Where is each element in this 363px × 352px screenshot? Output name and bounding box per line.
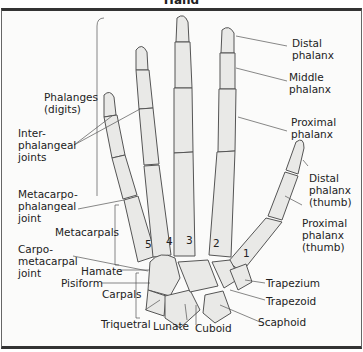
- label-middle-phalanx: Middle phalanx: [289, 71, 331, 95]
- label-triquetral: Triquetral: [101, 318, 151, 330]
- label-distal-phalanx-thumb: Distal phalanx (thumb): [309, 172, 352, 208]
- label-trapezium: Trapezium: [266, 277, 320, 289]
- label-scaphoid: Scaphoid: [258, 316, 306, 328]
- metacarpal-number-5: 5: [145, 238, 152, 250]
- metacarpal-number-3: 3: [186, 234, 193, 246]
- finger-1-bones: [228, 140, 304, 272]
- label-carpals: Carpals: [102, 288, 142, 300]
- label-metacarpophalangeal-joint: Metacarpo- phalangeal joint: [18, 188, 78, 224]
- metacarpal-number-4: 4: [166, 235, 173, 247]
- label-lunate: Lunate: [153, 320, 189, 332]
- label-proximal-phalanx: Proximal phalanx: [291, 116, 336, 140]
- label-cuboid: Cuboid: [195, 322, 232, 334]
- label-trapezoid: Trapezoid: [266, 295, 316, 307]
- label-metacarpals: Metacarpals: [55, 226, 119, 238]
- finger-3-bones: [174, 16, 195, 256]
- label-proximal-phalanx-thumb: Proximal phalanx (thumb): [302, 217, 347, 253]
- label-carpometacarpal-joint: Carpo- metacarpal joint: [18, 243, 78, 279]
- label-distal-phalanx: Distal phalanx: [292, 37, 334, 61]
- label-interphalangeal-joints: Inter- phalangeal joints: [18, 127, 76, 163]
- label-hamate: Hamate: [81, 265, 123, 277]
- label-pisiform: Pisiform: [61, 277, 103, 289]
- finger-2-bones: [209, 28, 236, 257]
- metacarpal-number-2: 2: [213, 237, 220, 249]
- label-phalanges: Phalanges (digits): [44, 91, 98, 115]
- metacarpal-number-1: 1: [243, 247, 250, 259]
